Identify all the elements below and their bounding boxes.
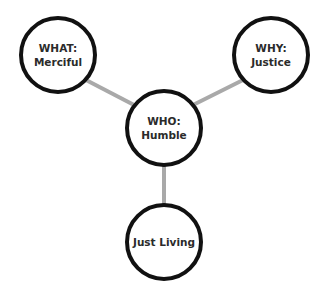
node-who-label-line2: Humble xyxy=(141,129,186,141)
node-why-label-line1: WHY: xyxy=(255,42,286,54)
node-why: WHY: Justice xyxy=(234,18,308,92)
node-just-living: Just Living xyxy=(127,205,201,279)
node-why-circle xyxy=(234,18,308,92)
node-who-label-line1: WHO: xyxy=(147,115,181,127)
node-just-living-label: Just Living xyxy=(132,236,195,248)
node-who-circle xyxy=(127,91,201,165)
node-who: WHO: Humble xyxy=(127,91,201,165)
connector-who-why xyxy=(191,80,243,106)
node-what-circle xyxy=(21,18,95,92)
node-what-label-line1: WHAT: xyxy=(39,42,77,54)
node-why-label-line2: Justice xyxy=(250,56,291,68)
node-what: WHAT: Merciful xyxy=(21,18,95,92)
concept-diagram: WHAT: Merciful WHY: Justice WHO: Humble … xyxy=(0,0,325,296)
node-what-label-line2: Merciful xyxy=(34,56,82,68)
connector-who-what xyxy=(86,80,136,106)
